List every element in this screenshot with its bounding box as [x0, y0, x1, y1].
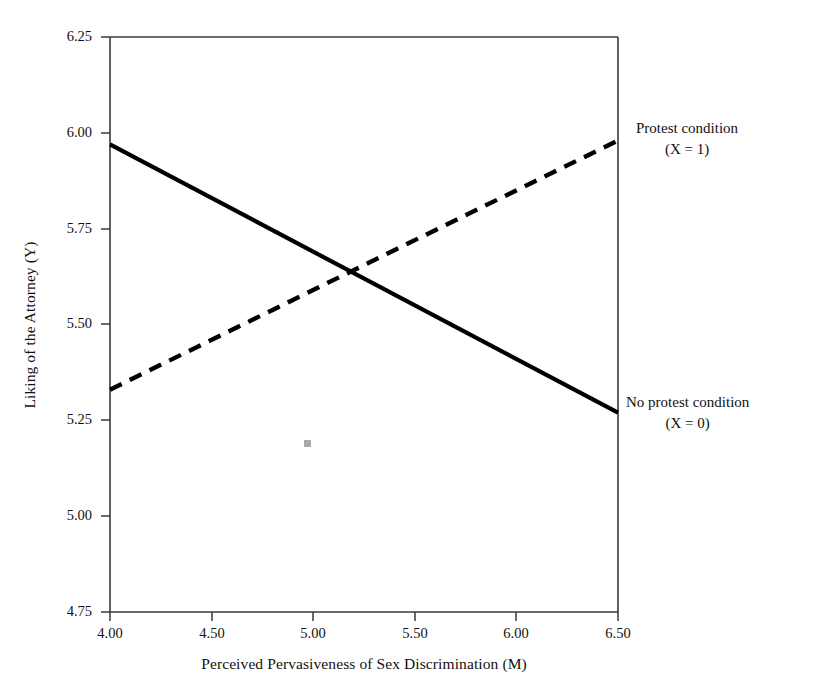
x-tick-label-4-50: 4.50: [177, 625, 247, 642]
y-axis-title: Liking of the Attorney (Y): [21, 165, 39, 485]
plot-frame: [110, 37, 618, 612]
chart-figure: 6.25 6.00 5.75 5.50 5.25 5.00 4.75 4.00 …: [0, 0, 825, 695]
scan-artifact-speck: [304, 440, 311, 447]
y-tick-label-5-00: 5.00: [32, 507, 92, 524]
annotation-no-protest-condition: No protest condition (X = 0): [626, 392, 749, 433]
series-line-no-protest: [110, 144, 618, 412]
y-tick-label-5-50: 5.50: [32, 315, 92, 332]
y-tick-label-6-25: 6.25: [32, 28, 92, 45]
y-axis-ticks: [101, 37, 110, 612]
y-tick-label-5-25: 5.25: [32, 411, 92, 428]
y-tick-label-4-75: 4.75: [32, 603, 92, 620]
x-tick-label-6-50: 6.50: [583, 625, 653, 642]
annotation-protest-line2: (X = 1): [636, 139, 738, 160]
annotation-protest-line1: Protest condition: [636, 118, 738, 139]
x-tick-label-4-00: 4.00: [75, 625, 145, 642]
annotation-no-protest-line2: (X = 0): [626, 413, 749, 434]
x-axis-ticks: [110, 612, 618, 621]
y-tick-label-6-00: 6.00: [32, 124, 92, 141]
annotation-protest-condition: Protest condition (X = 1): [636, 118, 738, 159]
x-tick-label-6-00: 6.00: [481, 625, 551, 642]
x-tick-label-5-00: 5.00: [278, 625, 348, 642]
x-axis-title: Perceived Pervasiveness of Sex Discrimin…: [110, 655, 618, 673]
annotation-no-protest-line1: No protest condition: [626, 392, 749, 413]
x-tick-label-5-50: 5.50: [380, 625, 450, 642]
plot-canvas: [0, 0, 825, 695]
y-tick-label-5-75: 5.75: [32, 220, 92, 237]
series-line-protest: [110, 141, 618, 390]
